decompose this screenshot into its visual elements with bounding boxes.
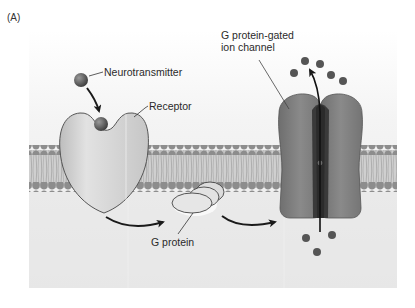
neurotransmitter-label: Neurotransmitter <box>104 66 182 78</box>
diagram-canvas <box>0 0 415 308</box>
channel-label-line2: ion channel <box>221 41 275 53</box>
neurotransmitter-molecule <box>74 73 88 87</box>
diagram-figure: (A) <box>0 0 415 308</box>
channel-label-line1: G protein-gated <box>221 29 294 41</box>
bound-neurotransmitter <box>94 117 108 131</box>
receptor-label: Receptor <box>149 100 192 112</box>
g-protein-label: G protein <box>151 236 194 248</box>
